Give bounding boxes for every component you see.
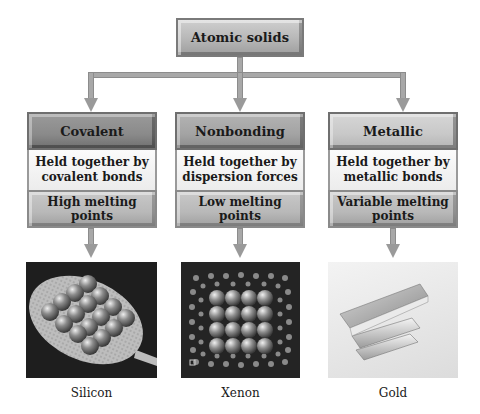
nonbonding-branch-connector bbox=[237, 72, 243, 100]
covalent-branch-connector bbox=[88, 72, 94, 100]
covalent-down-arrow-icon bbox=[84, 244, 98, 258]
gold-bars-image bbox=[328, 262, 458, 378]
nonbonding-type-label: Nonbonding bbox=[195, 124, 285, 139]
xenon-lattice-image bbox=[181, 262, 300, 378]
metallic-type-label: Metallic bbox=[363, 124, 423, 139]
silicon-caption-text: Silicon bbox=[71, 386, 112, 400]
metallic-property-line2: points bbox=[372, 209, 414, 223]
covalent-description: Held together by covalent bonds bbox=[27, 150, 157, 190]
horizontal-connector bbox=[88, 72, 406, 78]
nonbonding-header: Nonbonding bbox=[175, 112, 305, 150]
xenon-caption: Xenon bbox=[181, 386, 300, 400]
metallic-description-line2: metallic bonds bbox=[343, 170, 442, 185]
metallic-arrow-icon bbox=[396, 98, 410, 112]
nonbonding-description: Held together by dispersion forces bbox=[175, 150, 305, 190]
metallic-down-arrow-icon bbox=[386, 244, 400, 258]
metallic-property-line1: Variable melting bbox=[337, 195, 449, 209]
gold-caption: Gold bbox=[328, 386, 458, 400]
metallic-description-line1: Held together by bbox=[336, 155, 449, 170]
column-metallic: Metallic Held together by metallic bonds… bbox=[328, 112, 458, 228]
nonbonding-property-line1: Low melting bbox=[198, 195, 281, 209]
covalent-description-line1: Held together by bbox=[35, 155, 148, 170]
covalent-type-label: Covalent bbox=[60, 124, 124, 139]
covalent-arrow-icon bbox=[84, 98, 98, 112]
gold-caption-text: Gold bbox=[379, 386, 407, 400]
nonbonding-property: Low melting points bbox=[175, 190, 305, 228]
xenon-caption-text: Xenon bbox=[221, 386, 259, 400]
column-covalent: Covalent Held together by covalent bonds… bbox=[27, 112, 157, 228]
covalent-description-line2: covalent bonds bbox=[42, 170, 143, 185]
root-label: Atomic solids bbox=[191, 30, 289, 45]
metallic-description: Held together by metallic bonds bbox=[328, 150, 458, 190]
metallic-branch-connector bbox=[400, 72, 406, 100]
metallic-property: Variable melting points bbox=[328, 190, 458, 228]
covalent-property-line2: points bbox=[71, 209, 113, 223]
nonbonding-description-line2: dispersion forces bbox=[182, 170, 297, 185]
covalent-property: High melting points bbox=[27, 190, 157, 228]
column-nonbonding: Nonbonding Held together by dispersion f… bbox=[175, 112, 305, 228]
nonbonding-arrow-icon bbox=[233, 98, 247, 112]
nonbonding-description-line1: Held together by bbox=[183, 155, 296, 170]
covalent-header: Covalent bbox=[27, 112, 157, 150]
silicon-lattice-image bbox=[26, 262, 157, 378]
silicon-caption: Silicon bbox=[26, 386, 157, 400]
root-node-atomic-solids: Atomic solids bbox=[176, 18, 304, 57]
covalent-property-line1: High melting bbox=[47, 195, 136, 209]
nonbonding-property-line2: points bbox=[219, 209, 261, 223]
nonbonding-down-arrow-icon bbox=[233, 244, 247, 258]
metallic-header: Metallic bbox=[328, 112, 458, 150]
